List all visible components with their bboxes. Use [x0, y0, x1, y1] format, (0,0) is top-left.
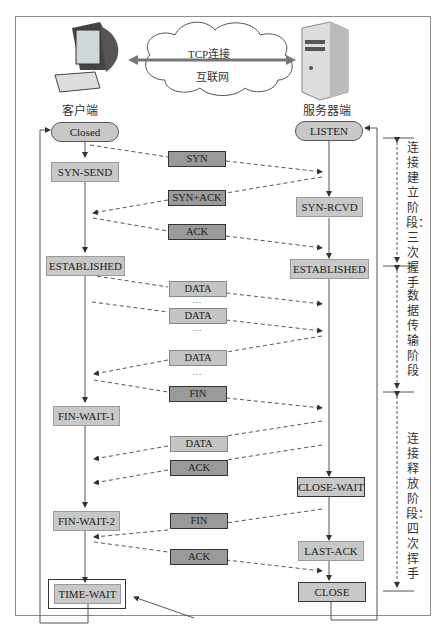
msg-ack: ACK — [168, 224, 226, 240]
state-syn-send: SYN-SEND — [51, 162, 119, 182]
ellipsis-2: ··· — [169, 326, 225, 334]
state-server-established: ESTABLISHED — [290, 259, 369, 279]
msg-ack-final: ACK — [170, 549, 228, 565]
phase-label-transfer: 数据传输阶段 — [406, 289, 420, 379]
state-close-wait: CLOSE-WAIT — [297, 477, 365, 497]
client-label: 客户端 — [62, 101, 98, 119]
state-last-ack: LAST-ACK — [298, 541, 364, 561]
server-icon — [302, 22, 348, 100]
msg-data-1: DATA — [169, 281, 227, 297]
state-client-established: ESTABLISHED — [46, 256, 125, 276]
state-listen: LISTEN — [295, 121, 363, 141]
msg-data-2: DATA — [169, 308, 227, 324]
server-label: 服务器端 — [303, 101, 351, 119]
phase-label-release: 连接释放阶段：四次挥手 — [406, 432, 420, 582]
msg-fin-client: FIN — [169, 386, 227, 402]
msg-syn: SYN — [168, 151, 226, 167]
phase-label-handshake: 连接建立阶段：三次握手 — [406, 141, 420, 291]
state-time-wait: TIME-WAIT — [54, 584, 121, 604]
msg-data-3: DATA — [169, 350, 227, 366]
state-fin-wait-1: FIN-WAIT-1 — [53, 406, 120, 426]
tcp-connection-label: TCP连接 — [188, 45, 230, 61]
msg-syn-ack: SYN+ACK — [168, 190, 226, 206]
msg-ack-server: ACK — [170, 460, 228, 476]
internet-label: 互联网 — [196, 68, 229, 84]
ellipsis-3: ··· — [169, 370, 225, 378]
state-closed: Closed — [51, 122, 119, 142]
ellipsis-1: ··· — [169, 298, 225, 306]
msg-data-4: DATA — [170, 436, 228, 452]
state-close: CLOSE — [298, 582, 366, 602]
state-syn-rcvd: SYN-RCVD — [296, 197, 363, 217]
state-fin-wait-2: FIN-WAIT-2 — [53, 511, 120, 531]
client-computer-icon — [55, 22, 118, 92]
msg-fin-server: FIN — [170, 513, 228, 529]
